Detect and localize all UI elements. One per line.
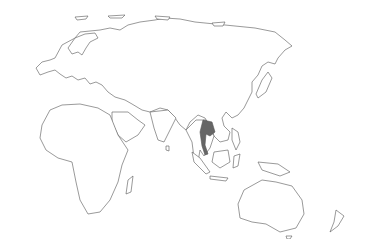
arctic-island [75, 16, 88, 20]
australia [238, 180, 304, 232]
java [210, 176, 228, 181]
philippines [232, 128, 240, 150]
new-zealand [330, 210, 344, 232]
arctic-island [212, 22, 225, 26]
sulawesi [233, 154, 240, 168]
india [150, 110, 176, 142]
sri-lanka [166, 146, 169, 151]
sumatra [192, 152, 210, 174]
tasmania [286, 236, 292, 239]
new-guinea [258, 162, 290, 176]
world-map [0, 0, 367, 239]
arctic-island [108, 15, 125, 18]
borneo [212, 150, 230, 168]
madagascar [126, 176, 133, 194]
japan [256, 72, 272, 98]
